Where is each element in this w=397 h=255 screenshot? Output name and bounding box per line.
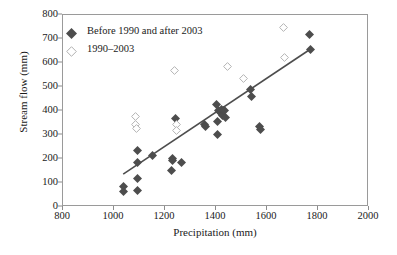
y-tick-mark <box>58 62 62 63</box>
chart-legend: Before 1990 and after 2003 1990–2003 <box>66 22 266 58</box>
filled-diamond-icon <box>66 25 77 36</box>
data-point-filled-diamond <box>306 45 315 54</box>
data-point-filled-diamond <box>133 146 142 155</box>
x-tick-label: 800 <box>37 210 87 222</box>
x-tick-label: 1600 <box>241 210 291 222</box>
x-tick-mark <box>368 206 369 210</box>
data-point-open-diamond <box>280 53 289 62</box>
data-point-filled-diamond <box>221 113 230 122</box>
x-tick-mark <box>62 206 63 210</box>
x-tick-label: 1400 <box>190 210 240 222</box>
y-tick-mark <box>58 38 62 39</box>
open-diamond-icon <box>66 43 77 54</box>
data-point-open-diamond <box>223 62 232 71</box>
data-point-open-diamond <box>172 126 181 135</box>
y-tick-mark <box>58 14 62 15</box>
y-axis-title: Stream flow (mm) <box>17 17 29 167</box>
x-axis-title: Precipitation (mm) <box>62 226 368 238</box>
y-tick-mark <box>58 86 62 87</box>
data-point-filled-diamond <box>167 166 176 175</box>
legend-label: 1990–2003 <box>87 42 134 55</box>
legend-item-1990-2003: 1990–2003 <box>66 40 266 58</box>
data-point-filled-diamond <box>119 187 128 196</box>
x-tick-label: 1200 <box>139 210 189 222</box>
data-point-filled-diamond <box>256 125 265 134</box>
data-point-filled-diamond <box>247 92 256 101</box>
x-tick-mark <box>317 206 318 210</box>
data-point-filled-diamond <box>201 122 210 131</box>
x-tick-label: 1000 <box>88 210 138 222</box>
data-point-filled-diamond <box>177 158 186 167</box>
data-point-filled-diamond <box>213 130 222 139</box>
legend-label: Before 1990 and after 2003 <box>87 24 202 37</box>
y-tick-mark <box>58 182 62 183</box>
data-point-filled-diamond <box>133 174 142 183</box>
y-tick-mark <box>58 134 62 135</box>
data-point-open-diamond <box>239 74 248 83</box>
data-point-filled-diamond <box>133 186 142 195</box>
x-tick-label: 2000 <box>343 210 393 222</box>
y-tick-label: 100 <box>18 177 58 187</box>
x-tick-mark <box>266 206 267 210</box>
data-point-filled-diamond <box>133 158 142 167</box>
data-point-filled-diamond <box>148 151 157 160</box>
x-tick-label: 1800 <box>292 210 342 222</box>
y-tick-mark <box>58 110 62 111</box>
data-point-filled-diamond <box>305 30 314 39</box>
y-tick-mark <box>58 158 62 159</box>
legend-item-before-1990-after-2003: Before 1990 and after 2003 <box>66 22 266 40</box>
scatter-chart-figure: 0100200300400500600700800 Stream flow (m… <box>0 0 397 255</box>
x-tick-mark <box>164 206 165 210</box>
x-tick-mark <box>113 206 114 210</box>
data-point-open-diamond <box>279 23 288 32</box>
x-tick-mark <box>215 206 216 210</box>
data-point-open-diamond <box>170 66 179 75</box>
data-point-open-diamond <box>132 124 141 133</box>
